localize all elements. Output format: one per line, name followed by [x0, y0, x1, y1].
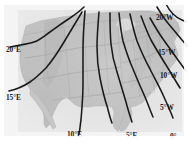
- top-edge-fade: [0, 0, 188, 5]
- label-15W: 15°W: [158, 48, 176, 57]
- label-10W: 10°W: [160, 71, 178, 80]
- right-edge-fade: [184, 0, 188, 145]
- label-20W: 20°W: [156, 13, 174, 22]
- map-canvas: 20°E 15°E 10°E 5°E 0° 5°W 10°W 15°W 20°W: [0, 0, 188, 145]
- label-5W: 5°W: [160, 103, 174, 112]
- bottom-edge-fade: [0, 136, 188, 145]
- paper-artifact: [116, 131, 130, 132]
- left-edge-fade: [0, 0, 4, 145]
- label-15E: 15°E: [6, 93, 21, 102]
- label-20E: 20°E: [6, 45, 21, 54]
- declination-map-figure: 20°E 15°E 10°E 5°E 0° 5°W 10°W 15°W 20°W: [0, 0, 188, 145]
